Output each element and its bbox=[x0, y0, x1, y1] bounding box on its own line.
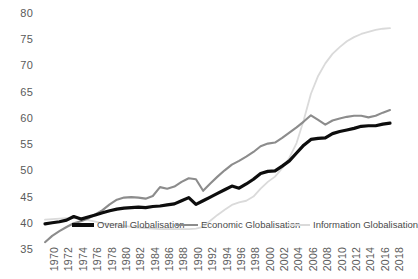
series-line-overall-globalisation bbox=[45, 123, 390, 224]
y-axis-tick-label: 40 bbox=[20, 217, 33, 228]
x-axis-tick-label: 2014 bbox=[365, 247, 376, 271]
x-axis-tick-label: 2008 bbox=[322, 247, 333, 271]
x-axis-tick-label: 2002 bbox=[279, 247, 290, 271]
x-axis-tick-label: 1974 bbox=[78, 247, 89, 271]
y-axis-tick-label: 50 bbox=[20, 165, 33, 176]
x-axis-tick-label: 1990 bbox=[193, 247, 204, 271]
x-axis-tick-label: 1994 bbox=[222, 247, 233, 271]
y-axis-tick-label: 45 bbox=[20, 191, 33, 202]
y-axis-tick-label: 80 bbox=[20, 8, 33, 19]
x-axis-tick-label: 1988 bbox=[178, 247, 189, 271]
x-axis-tick-label: 2018 bbox=[394, 247, 405, 271]
x-axis-tick-label: 1976 bbox=[92, 247, 103, 271]
x-axis: 1970197219741976197819801982198419861988… bbox=[42, 247, 400, 279]
plot-area bbox=[42, 0, 400, 279]
x-axis-tick-label: 1970 bbox=[49, 247, 60, 271]
x-axis-tick-label: 1996 bbox=[236, 247, 247, 271]
x-axis-tick-label: 1980 bbox=[121, 247, 132, 271]
x-axis-tick-label: 2004 bbox=[293, 247, 304, 271]
y-axis-tick-label: 60 bbox=[20, 112, 33, 123]
x-axis-tick-label: 2010 bbox=[337, 247, 348, 271]
y-axis: 80757065605550454035 bbox=[0, 0, 42, 279]
x-axis-tick-label: 1986 bbox=[164, 247, 175, 271]
x-axis-tick-label: 1972 bbox=[63, 247, 74, 271]
x-axis-tick-label: 1978 bbox=[107, 247, 118, 271]
x-axis-tick-label: 2012 bbox=[351, 247, 362, 271]
series-lines bbox=[42, 0, 400, 279]
x-axis-tick-label: 2016 bbox=[380, 247, 391, 271]
x-axis-tick-label: 1984 bbox=[150, 247, 161, 271]
x-axis-tick-label: 2006 bbox=[308, 247, 319, 271]
y-axis-tick-label: 75 bbox=[20, 34, 33, 45]
x-axis-tick-label: 1992 bbox=[207, 247, 218, 271]
y-axis-tick-label: 55 bbox=[20, 139, 33, 150]
y-axis-tick-label: 70 bbox=[20, 60, 33, 71]
x-axis-tick-label: 2000 bbox=[265, 247, 276, 271]
series-line-information-globalisation bbox=[45, 28, 390, 229]
y-axis-tick-label: 35 bbox=[20, 244, 33, 255]
y-axis-tick-label: 65 bbox=[20, 86, 33, 97]
x-axis-tick-label: 1982 bbox=[135, 247, 146, 271]
x-axis-tick-label: 1998 bbox=[250, 247, 261, 271]
